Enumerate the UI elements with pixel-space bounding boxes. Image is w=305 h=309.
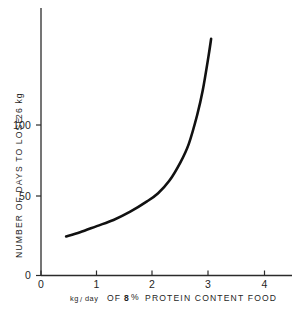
x-tick-label-4: 4 bbox=[261, 278, 267, 290]
y-axis-title-value: 26 kg bbox=[14, 92, 24, 119]
x-tick-label-2: 2 bbox=[149, 278, 155, 290]
x-axis-title-number: 8 bbox=[124, 293, 130, 303]
x-tick-label-0: 0 bbox=[38, 278, 44, 290]
x-axis-title-kg: kg bbox=[70, 294, 79, 303]
chart-container: 0 50 100 0 1 2 3 4 kg / day OF 8 % PROTE… bbox=[0, 0, 305, 309]
y-axis-title-text: NUMBER OF DAYS TO LOSE bbox=[14, 117, 24, 258]
x-tick-label-3: 3 bbox=[205, 278, 211, 290]
y-axis-title: NUMBER OF DAYS TO LOSE 26 kg bbox=[14, 92, 24, 258]
x-axis-title-rest: PROTEIN CONTENT FOOD bbox=[145, 293, 277, 303]
x-tick-label-1: 1 bbox=[93, 278, 99, 290]
x-axis-title-of: OF bbox=[107, 293, 121, 303]
x-axis-title-slash: / bbox=[80, 295, 83, 304]
x-axis-title: kg / day OF 8 % PROTEIN CONTENT FOOD bbox=[70, 292, 277, 304]
y-tick-label-0: 0 bbox=[25, 269, 31, 281]
data-curve-days-to-lose bbox=[66, 39, 211, 237]
x-axis-title-day: day bbox=[85, 294, 98, 303]
chart-plot-area: 0 50 100 0 1 2 3 4 kg / day OF 8 % PROTE… bbox=[0, 0, 305, 309]
percent-symbol: % bbox=[131, 292, 140, 302]
